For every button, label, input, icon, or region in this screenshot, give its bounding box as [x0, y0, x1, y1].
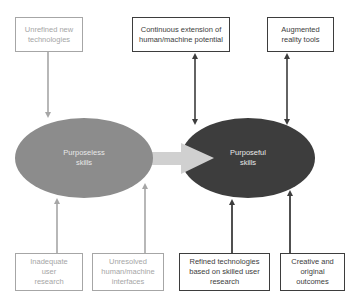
purposeless-skills-label: Purposeless skills — [44, 148, 124, 168]
box-augmented-reality-tools: Augmented reality tools — [267, 17, 334, 52]
purposeful-skills-label: Purposeful skills — [208, 148, 288, 168]
box-refined-technologies: Refined technologies based on skilled us… — [179, 253, 270, 291]
box-unresolved-interfaces: Unresolved human/machine interfaces — [92, 253, 164, 291]
box-continuous-extension: Continuous extension of human/machine po… — [132, 17, 230, 52]
skills-diagram: Purposeless skills Purposeful skills Unr… — [0, 0, 359, 307]
box-inadequate-user-research: Inadequate user research — [15, 253, 83, 291]
box-unrefined-new-technologies: Unrefined new technologies — [15, 17, 83, 52]
box-creative-original-outcomes: Creative and original outcomes — [280, 253, 345, 291]
